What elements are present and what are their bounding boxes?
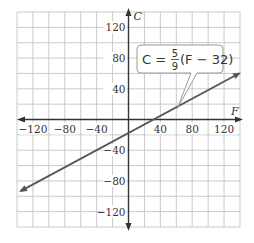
y-tick-label: −80 (103, 175, 125, 187)
equation-callout: C =59(F − 32) (137, 45, 233, 109)
y-tick-label: −120 (97, 206, 126, 218)
y-tick-label: −40 (103, 144, 125, 156)
x-tick-label: −120 (19, 123, 48, 135)
x-axis-label: F (230, 105, 239, 118)
equation-rhs: (F − 32) (180, 52, 233, 67)
y-tick-label: 40 (112, 83, 125, 95)
y-tick-label: 80 (112, 52, 125, 64)
y-axis-label: C (134, 10, 143, 23)
equation-lhs: C = (142, 52, 166, 67)
x-tick-label: 80 (186, 123, 199, 135)
x-tick-label: −40 (86, 123, 108, 135)
line-start-arrow-icon (19, 185, 28, 192)
equation-denominator: 9 (172, 61, 178, 72)
x-tick-label: 120 (214, 123, 234, 135)
equation-numerator: 5 (172, 48, 178, 59)
axes: CF (17, 8, 243, 231)
x-tick-label: −80 (54, 123, 76, 135)
chart: CF −120−80−4040801201208040−40−80−120 C … (0, 0, 254, 243)
x-tick-label: 40 (154, 123, 167, 135)
y-tick-label: 120 (105, 21, 125, 33)
